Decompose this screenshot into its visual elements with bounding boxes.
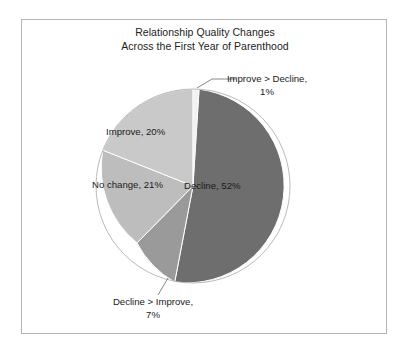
pie-label-no-change: No change, 21% — [92, 179, 163, 192]
pie-label-improve-greater-decline: Improve > Decline, 1% — [208, 73, 326, 98]
pie-label-decline: Decline, 52% — [184, 180, 241, 193]
pie-chart — [22, 20, 388, 335]
figure-frame: Relationship Quality Changes Across the … — [21, 19, 387, 334]
pie-label-improve-greater-decline-line-2: 1% — [208, 86, 326, 99]
pie-label-improve-greater-decline-line-1: Improve > Decline, — [208, 73, 326, 86]
pie-label-improve: Improve, 20% — [106, 126, 165, 139]
leader-line-decline-greater-improve — [158, 278, 168, 295]
pie-label-decline-greater-improve-line-1: Decline > Improve, — [88, 296, 218, 309]
pie-label-decline-greater-improve: Decline > Improve, 7% — [88, 296, 218, 321]
pie-label-decline-greater-improve-line-2: 7% — [88, 309, 218, 322]
